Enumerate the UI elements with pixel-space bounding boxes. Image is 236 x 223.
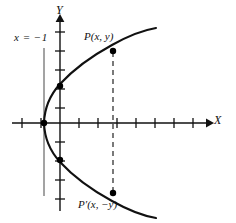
point-y-axis-lower	[57, 157, 63, 163]
x-axis-arrowhead	[206, 119, 214, 128]
point-p-label: P(x, y)	[84, 31, 113, 42]
y-axis-label: Y	[56, 4, 63, 16]
point-y-axis-upper	[57, 83, 63, 89]
parabola-figure: X Y x = −1 P(x, y) P′(x, −y)	[0, 0, 236, 223]
point-p-prime-label: P′(x, −y)	[78, 199, 117, 210]
x-axis-label: X	[214, 114, 221, 126]
point-vertex	[41, 120, 47, 126]
directrix-label: x = −1	[14, 32, 48, 43]
point-p-prime	[110, 190, 116, 196]
y-axis	[55, 14, 65, 211]
parabola-upper-branch	[44, 28, 156, 123]
point-p	[110, 48, 116, 54]
